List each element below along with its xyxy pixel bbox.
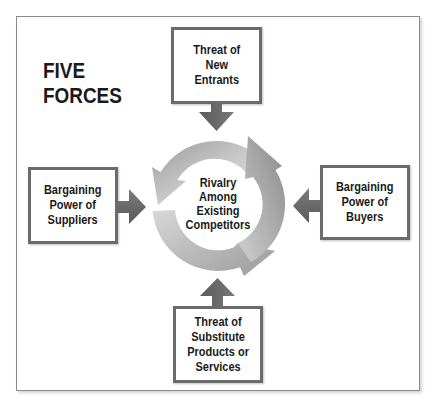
force-box-substitutes: Threat of Substitute Products or Service…	[173, 306, 263, 383]
force-label-new-entrants: Threat of New Entrants	[193, 43, 240, 88]
force-label-suppliers: Bargaining Power of Suppliers	[44, 183, 101, 228]
arrow-left-icon	[293, 188, 321, 224]
center-label-rivalry: Rivalry Among Existing Competitors	[174, 176, 262, 232]
force-box-buyers: Bargaining Power of Buyers	[320, 165, 410, 240]
arrow-up-icon	[200, 278, 236, 307]
arrow-down-icon	[199, 103, 235, 133]
force-box-suppliers: Bargaining Power of Suppliers	[28, 167, 118, 244]
title-line-2: FORCES	[43, 83, 122, 108]
diagram-title: FIVE FORCES	[43, 58, 122, 108]
force-box-new-entrants: Threat of New Entrants	[171, 27, 262, 104]
force-label-buyers: Bargaining Power of Buyers	[336, 180, 393, 225]
force-label-substitutes: Threat of Substitute Products or Service…	[187, 315, 249, 375]
arrow-right-icon	[117, 189, 147, 225]
title-line-1: FIVE	[43, 58, 122, 83]
